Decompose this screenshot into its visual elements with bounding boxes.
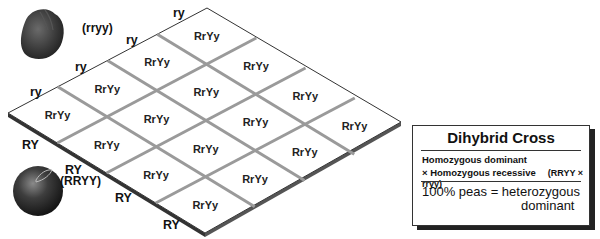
punnett-square-diagram: RrYyRrYyRrYyRrYyRrYyRrYyRrYyRrYyRrYyRrYy… bbox=[0, 0, 600, 239]
gamete-bottom-3: RY bbox=[115, 191, 132, 205]
punnett-cell: RrYy bbox=[94, 83, 121, 95]
punnett-cell: RrYy bbox=[243, 116, 270, 128]
punnett-cell: RrYy bbox=[193, 143, 220, 155]
punnett-cell: RrYy bbox=[292, 90, 319, 102]
punnett-cell: RrYy bbox=[143, 169, 170, 181]
round-pea-icon bbox=[13, 166, 63, 216]
gamete-bottom-1: RY bbox=[22, 138, 39, 152]
gamete-top-2: ry bbox=[75, 60, 87, 74]
punnett-cell: RrYy bbox=[192, 199, 219, 211]
legend-result: 100% peas = heterozygous dominant bbox=[422, 185, 580, 213]
punnett-cell: RrYy bbox=[342, 120, 369, 132]
legend-divider-2 bbox=[421, 181, 581, 182]
punnett-cell: RrYy bbox=[144, 56, 171, 68]
legend-title: Dihybrid Cross bbox=[413, 129, 589, 146]
punnett-cell: RrYy bbox=[144, 113, 171, 125]
punnett-cell: RrYy bbox=[292, 146, 319, 158]
legend-result-line2: dominant bbox=[422, 199, 580, 213]
punnett-cell: RrYy bbox=[243, 60, 270, 72]
punnett-cell: RrYy bbox=[94, 139, 121, 151]
gamete-top-3: ry bbox=[126, 33, 138, 47]
punnett-cell: RrYy bbox=[193, 86, 220, 98]
gamete-bottom-4: RY bbox=[163, 218, 180, 232]
legend-cross-line1: Homozygous dominant bbox=[422, 154, 527, 165]
wrinkled-pea-icon bbox=[21, 9, 64, 59]
legend-result-line1: 100% peas = heterozygous bbox=[422, 185, 580, 199]
legend-divider bbox=[421, 150, 581, 151]
gamete-top-1: ry bbox=[30, 85, 42, 99]
punnett-cell: RrYy bbox=[45, 109, 72, 121]
punnett-cell: RrYy bbox=[194, 30, 221, 42]
legend-box: Dihybrid Cross Homozygous dominant × Hom… bbox=[412, 125, 590, 226]
gamete-top-4: ry bbox=[173, 6, 185, 20]
punnett-cell: RrYy bbox=[242, 173, 269, 185]
legend-cross-text: × Homozygous recessive bbox=[422, 167, 536, 178]
wrinkled-genotype-label: (rryy) bbox=[82, 21, 113, 35]
gamete-bottom-2: RY bbox=[65, 163, 82, 177]
